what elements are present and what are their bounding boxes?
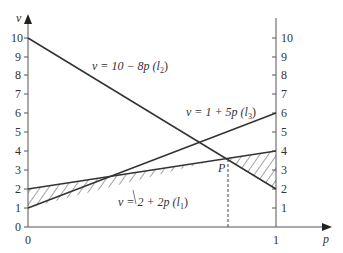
svg-text:4: 4 xyxy=(281,144,287,158)
svg-text:2: 2 xyxy=(15,182,21,196)
line-chart: 0 1 2 3 4 5 6 7 8 9 10 1 2 3 4 5 6 7 8 9… xyxy=(0,0,343,253)
y-axis-label: v xyxy=(16,11,22,25)
svg-text:0: 0 xyxy=(15,220,21,234)
svg-text:7: 7 xyxy=(15,87,21,101)
svg-text:1: 1 xyxy=(281,201,287,215)
svg-text:5: 5 xyxy=(15,125,21,139)
svg-text:8: 8 xyxy=(15,68,21,82)
svg-text:3: 3 xyxy=(281,163,287,177)
svg-text:2: 2 xyxy=(281,182,287,196)
left-tick-labels: 0 1 2 3 4 5 6 7 8 9 10 xyxy=(11,31,23,234)
svg-text:1: 1 xyxy=(15,201,21,215)
label-l3: v = 1 + 5p (l3) xyxy=(186,105,256,121)
label-l2: v = 10 − 8p (l2) xyxy=(92,59,168,75)
svg-text:8: 8 xyxy=(281,68,287,82)
svg-text:9: 9 xyxy=(281,50,287,64)
svg-text:6: 6 xyxy=(281,106,287,120)
svg-text:6: 6 xyxy=(15,106,21,120)
y-axis-arrow-icon xyxy=(24,14,32,24)
svg-text:5: 5 xyxy=(281,125,287,139)
svg-text:4: 4 xyxy=(15,144,21,158)
svg-text:7: 7 xyxy=(281,87,287,101)
x-tick-1: 1 xyxy=(273,233,279,247)
point-p-label: P xyxy=(217,161,226,175)
right-tick-labels: 1 2 3 4 5 6 7 8 9 10 xyxy=(281,31,293,215)
left-ticks xyxy=(24,38,28,227)
label-l1: v = 2 + 2p (l1) xyxy=(118,195,188,211)
svg-text:3: 3 xyxy=(15,163,21,177)
svg-text:9: 9 xyxy=(15,50,21,64)
svg-text:10: 10 xyxy=(281,31,293,45)
x-axis-label: p xyxy=(322,232,329,246)
line-l1 xyxy=(28,151,276,189)
x-axis-arrow-icon xyxy=(322,223,332,231)
x-tick-0: 0 xyxy=(25,233,31,247)
svg-text:10: 10 xyxy=(11,31,23,45)
